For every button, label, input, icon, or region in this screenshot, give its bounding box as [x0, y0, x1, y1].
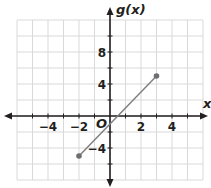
endpoint-closed-dot [76, 153, 82, 159]
x-axis-label: x [202, 96, 211, 111]
x-tick-label: −2 [70, 120, 88, 134]
endpoint-closed-dot [154, 73, 160, 79]
y-axis-down-arrow-icon [107, 179, 114, 187]
y-tick-label: 4 [98, 78, 106, 92]
x-axis-right-arrow-icon [200, 113, 208, 120]
axes [4, 7, 208, 187]
x-axis-left-arrow-icon [4, 113, 12, 120]
x-tick-label: −4 [39, 120, 57, 134]
coordinate-plane: −4−22484−4 g(x) x O [0, 0, 211, 188]
y-axis-up-arrow-icon [107, 7, 114, 15]
y-tick-label: 8 [98, 46, 106, 60]
x-tick-label: 4 [168, 120, 176, 134]
y-axis-label: g(x) [116, 2, 146, 17]
origin-label: O [96, 116, 107, 131]
x-tick-label: 2 [137, 120, 145, 134]
